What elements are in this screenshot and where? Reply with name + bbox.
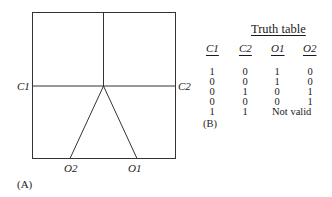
header-o2: O2 bbox=[303, 42, 316, 54]
header-c1: C1 bbox=[206, 42, 219, 54]
header-o1: O1 bbox=[271, 42, 284, 54]
panel-a-label: (A) bbox=[17, 178, 32, 190]
truth-table-title: Truth table bbox=[251, 22, 306, 37]
not-valid-cell: Not valid bbox=[272, 106, 311, 117]
c2-label: C2 bbox=[178, 80, 191, 92]
header-c2: C2 bbox=[239, 42, 252, 54]
triangle-left-edge bbox=[70, 86, 104, 159]
triangle-right-edge bbox=[104, 86, 138, 159]
cell: 1 bbox=[239, 106, 251, 117]
panel-b-label: (B) bbox=[203, 118, 217, 130]
o2-label: O2 bbox=[64, 162, 77, 174]
cell: 1 bbox=[206, 106, 218, 117]
o1-label: O1 bbox=[128, 162, 141, 174]
c1-label: C1 bbox=[17, 80, 30, 92]
